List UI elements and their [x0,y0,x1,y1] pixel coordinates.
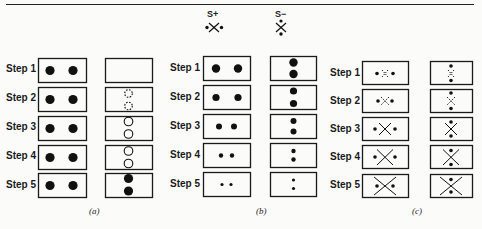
figure-root: S+ S− Step 1 Step 2 Step 3 Step 4 Step 5… [0,0,482,229]
box-b-left-4 [204,144,251,168]
s-minus-icon [276,19,286,35]
box-b-right-5 [271,173,317,197]
box-a-right-2 [106,88,153,112]
box-b-right-4 [271,144,317,168]
box-b-left-2 [204,86,251,110]
box-b-left-3 [204,115,251,139]
box-a-right-3 [106,117,153,141]
box-b-left-5 [204,173,251,197]
box-c-left-1 [363,62,409,85]
box-a-right-4 [106,146,153,170]
box-a-right-1 [106,59,153,83]
s-plus-icon [205,23,223,32]
diagram-graphics [0,0,482,229]
box-b-left-1 [204,57,251,81]
